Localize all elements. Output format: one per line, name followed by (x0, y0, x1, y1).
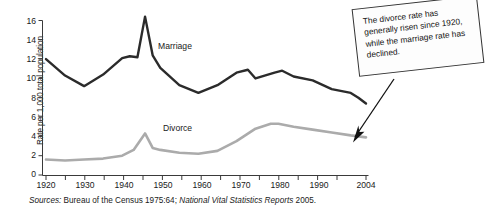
source-label: Sources: (29, 196, 61, 205)
series-line-divorce (46, 124, 366, 161)
series-line-marriage (46, 17, 366, 104)
source-publication: National Vital Statistics Reports (179, 196, 293, 205)
callout-annotation-text: The divorce rate has generally risen sin… (362, 4, 472, 61)
callout-arrow (350, 79, 394, 143)
source-note: Sources: Bureau of the Census 1975:64; N… (29, 196, 316, 205)
chart-figure: Rate per 1,000 total population 16 14 12… (0, 0, 491, 213)
y-tick-marks (39, 21, 43, 176)
series-label-marriage: Marriage (158, 41, 192, 51)
source-part2: 2005. (293, 196, 316, 205)
series-label-divorce: Divorce (163, 123, 192, 133)
x-tick-marks (46, 176, 366, 181)
source-part1: Bureau of the Census 1975:64; (61, 196, 179, 205)
